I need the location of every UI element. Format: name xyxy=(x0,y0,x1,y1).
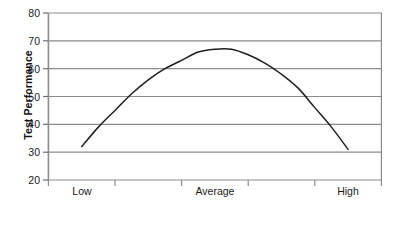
y-tick-label: 40 xyxy=(28,118,40,130)
x-axis-tick-labels: Low Average High xyxy=(72,185,359,197)
y-axis-tick-labels: 80 70 60 50 40 30 20 xyxy=(28,7,40,186)
chart-container: Test Performance 80 7 xyxy=(0,0,393,234)
x-tick-label-low: Low xyxy=(72,185,92,197)
y-tick-label: 60 xyxy=(28,63,40,75)
gridlines xyxy=(48,13,382,180)
chart-plot-area: 80 70 60 50 40 30 20 Low Average High xyxy=(0,0,393,234)
y-axis-ticks xyxy=(43,13,48,180)
x-tick-label-average: Average xyxy=(196,185,235,197)
data-series-curve xyxy=(82,49,348,150)
y-tick-label: 70 xyxy=(28,35,40,47)
x-tick-label-high: High xyxy=(337,185,359,197)
y-tick-label: 20 xyxy=(28,174,40,186)
y-tick-label: 50 xyxy=(28,91,40,103)
y-tick-label: 30 xyxy=(28,146,40,158)
y-tick-label: 80 xyxy=(28,7,40,19)
